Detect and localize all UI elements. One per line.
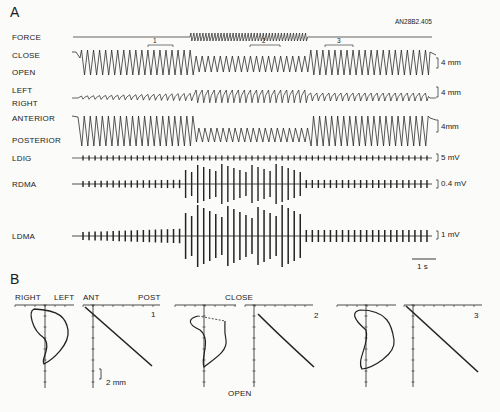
axis-label-open: OPEN <box>228 389 251 398</box>
panel-b-label: B <box>10 271 19 287</box>
channel-label-left: LEFT <box>12 86 32 95</box>
axis-label-right: RIGHT <box>15 293 41 302</box>
scale-bar-close-open: 4 mm <box>441 58 461 67</box>
time-scale-label: 1 s <box>417 262 428 271</box>
axis-label-post: POST <box>138 293 161 302</box>
channel-label-ldig: LDIG <box>12 154 31 163</box>
segment-label-1: 1 <box>153 37 157 44</box>
channel-label-rdma: RDMA <box>12 180 36 189</box>
channel-label-force: FORCE <box>12 33 41 42</box>
scale-bar-left-right: 4 mm <box>441 88 461 97</box>
plot-number-1: 1 <box>151 310 156 319</box>
channel-label-right: RIGHT <box>12 99 38 108</box>
axis-label-ant: ANT <box>83 293 100 302</box>
channel-label-open: OPEN <box>12 68 35 77</box>
segment-label-2: 2 <box>262 37 266 44</box>
panel-a-label: A <box>10 4 19 20</box>
channel-label-close: CLOSE <box>12 51 40 60</box>
scale-bar-ant-post: 4mm <box>441 122 459 131</box>
channel-label-posterior: POSTERIOR <box>12 136 61 145</box>
figure-canvas <box>0 0 500 412</box>
scale-bar-rdma: 0.4 mV <box>441 179 466 188</box>
axis-label-close: CLOSE <box>225 293 253 302</box>
axis-label-left: LEFT <box>54 293 74 302</box>
channel-label-ldma: LDMA <box>12 232 35 241</box>
scale-2mm-label: 2 mm <box>106 378 126 387</box>
plot-number-2: 2 <box>314 311 319 320</box>
scale-bar-ldma: 1 mV <box>441 230 460 239</box>
scale-bar-ldig: 5 mV <box>441 153 460 162</box>
channel-label-anterior: ANTERIOR <box>12 114 55 123</box>
figure-id: AN28B2.405 <box>395 18 432 25</box>
segment-label-3: 3 <box>337 37 341 44</box>
plot-number-3: 3 <box>474 311 479 320</box>
